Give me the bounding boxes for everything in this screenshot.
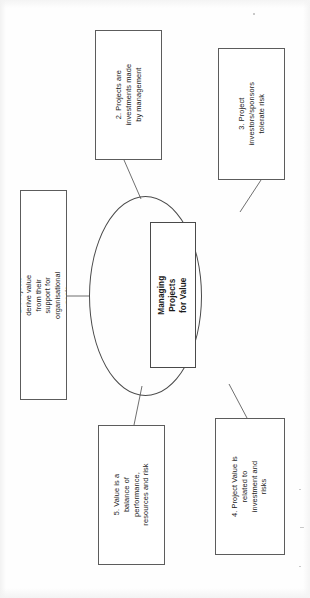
- connector-4: [229, 384, 247, 418]
- node-3-investors-tolerate-risk[interactable]: 3. Project investors/sponsors tolerate r…: [218, 48, 285, 180]
- node-2-projects-are-investments[interactable]: 2. Projects are investments made by mana…: [95, 30, 162, 160]
- diagram-canvas: Managing Projects for Value 1. Projects …: [0, 0, 310, 598]
- connector-3: [240, 180, 261, 212]
- connector-2: [124, 160, 141, 199]
- node-4-label: 4. Project Value is related to investmen…: [230, 453, 269, 521]
- node-1-projects-derive-value[interactable]: 1. Projects derive value from their supp…: [20, 190, 67, 400]
- center-node-label: Managing Projects for Value: [157, 273, 189, 317]
- node-4-project-value-related[interactable]: 4. Project Value is related to investmen…: [215, 418, 285, 555]
- node-1-label: 1. Projects derive value from their supp…: [20, 271, 67, 318]
- node-5-value-is-balance[interactable]: 5. Value is a balance of performance, re…: [98, 425, 165, 565]
- node-3-label: 3. Project investors/sponsors tolerate r…: [237, 81, 266, 146]
- node-2-label: 2. Projects are investments made by mana…: [114, 62, 143, 127]
- node-5-label: 5. Value is a balance of performance, re…: [112, 463, 151, 528]
- center-node[interactable]: Managing Projects for Value: [150, 222, 196, 368]
